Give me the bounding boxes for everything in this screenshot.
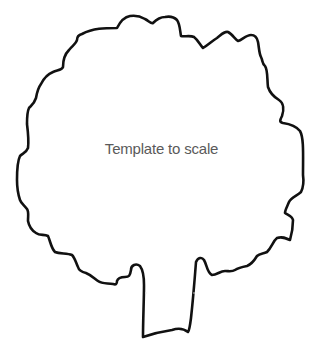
tree-template-outline xyxy=(0,0,323,356)
tree-outline-icon xyxy=(17,16,303,337)
template-caption: Template to scale xyxy=(0,140,323,157)
